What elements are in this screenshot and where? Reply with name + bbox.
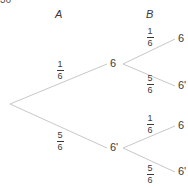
numerator: 1 <box>57 60 62 69</box>
numerator: 5 <box>57 131 62 140</box>
prob-a-top-b1: 1 6 <box>145 27 155 48</box>
prob-root-a-top: 1 6 <box>55 60 65 81</box>
numerator: 1 <box>147 114 152 123</box>
prob-a-bottom-b3: 1 6 <box>145 114 155 135</box>
numerator: 5 <box>147 164 152 173</box>
tree-branches <box>0 0 188 188</box>
numerator: 5 <box>147 74 152 83</box>
node-b-2: 6' <box>178 80 186 91</box>
node-b-1: 6 <box>178 33 184 44</box>
prob-a-top-b2: 5 6 <box>145 74 155 95</box>
denominator: 6 <box>57 143 62 152</box>
node-a-top: 6 <box>110 58 116 69</box>
denominator: 6 <box>147 86 152 95</box>
numerator: 1 <box>147 27 152 36</box>
denominator: 6 <box>147 39 152 48</box>
node-b-3: 6 <box>178 120 184 131</box>
denominator: 6 <box>147 126 152 135</box>
prob-a-bottom-b4: 5 6 <box>145 164 155 185</box>
denominator: 6 <box>57 72 62 81</box>
node-a-bottom: 6' <box>110 142 118 153</box>
denominator: 6 <box>147 176 152 185</box>
prob-root-a-bottom: 5 6 <box>55 131 65 152</box>
node-b-4: 6' <box>178 166 186 177</box>
